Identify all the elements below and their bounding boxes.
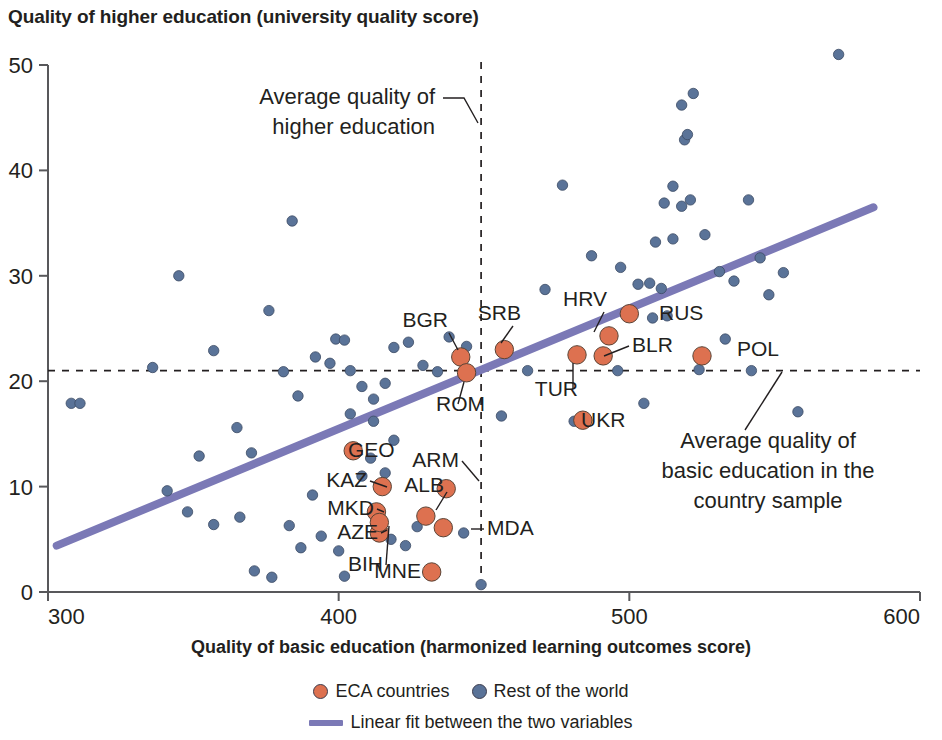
scatter-point-rest-of-world (325, 358, 335, 368)
legend-item-linear-fit[interactable]: Linear fit between the two variables (309, 712, 632, 733)
scatter-point-rest-of-world (694, 364, 704, 374)
scatter-point-rest-of-world (345, 409, 355, 419)
x-tick-label: 600 (883, 604, 920, 629)
scatter-point-rest-of-world (656, 283, 666, 293)
scatter-point-eca-hrv (600, 327, 618, 345)
scatter-point-rest-of-world (389, 342, 399, 352)
legend-label-eca-countries: ECA countries (335, 681, 449, 702)
country-label-alb: ALB (404, 473, 444, 496)
country-label-rus: RUS (659, 301, 703, 324)
scatter-point-rest-of-world (75, 398, 85, 408)
scatter-point-rest-of-world (714, 266, 724, 276)
scatter-point-rest-of-world (650, 237, 660, 247)
x-tick-label: 400 (320, 604, 357, 629)
country-label-rom: ROM (436, 392, 485, 415)
scatter-point-eca-pol (693, 347, 711, 365)
scatter-point-rest-of-world (182, 507, 192, 517)
scatter-point-eca-tur (568, 346, 586, 364)
scatter-point-rest-of-world (557, 180, 567, 190)
country-label-mne: MNE (374, 559, 421, 582)
scatter-point-rest-of-world (755, 253, 765, 263)
leader-line-arm (462, 461, 479, 481)
scatter-point-rest-of-world (764, 290, 774, 300)
scatter-point-rest-of-world (208, 519, 218, 529)
scatter-point-rest-of-world (232, 422, 242, 432)
scatter-point-rest-of-world (293, 391, 303, 401)
axes: 01020304050300400500600 (9, 53, 920, 629)
scatter-point-rest-of-world (633, 279, 643, 289)
scatter-point-rest-of-world (647, 313, 657, 323)
annotation-leader-avg-basic-education (745, 372, 782, 430)
y-tick-label: 40 (9, 158, 33, 183)
scatter-point-rest-of-world (174, 271, 184, 281)
country-label-srb: SRB (478, 301, 521, 324)
scatter-point-rest-of-world (743, 195, 753, 205)
scatter-point-rest-of-world (496, 411, 506, 421)
scatter-point-rest-of-world (316, 531, 326, 541)
y-tick-label: 30 (9, 264, 33, 289)
scatter-point-rest-of-world (432, 367, 442, 377)
scatter-point-rest-of-world (267, 572, 277, 582)
legend-label-linear-fit: Linear fit between the two variables (350, 712, 632, 733)
chart-figure: Quality of higher education (university … (0, 0, 942, 740)
scatter-point-eca-rom (457, 364, 475, 382)
scatter-point-eca-srb (495, 340, 513, 358)
scatter-point-rest-of-world (147, 362, 157, 372)
annotation-avg-basic-education-line: basic education in the (662, 458, 875, 483)
legend-label-rest-of-world: Rest of the world (494, 681, 629, 702)
x-axis-title: Quality of basic education (harmonized l… (0, 637, 942, 658)
scatter-point-rest-of-world (235, 512, 245, 522)
country-label-mkd: MKD (327, 496, 374, 519)
scatter-point-rest-of-world (368, 416, 378, 426)
annotation-avg-higher-education-line: Average quality of (259, 84, 436, 109)
scatter-point-rest-of-world (615, 262, 625, 272)
scatter-point-rest-of-world (668, 234, 678, 244)
scatter-point-eca-mne (422, 563, 440, 581)
scatter-point-rest-of-world (278, 367, 288, 377)
scatter-point-rest-of-world (639, 398, 649, 408)
eca-countries-marker-icon (313, 684, 328, 699)
legend-item-eca-countries[interactable]: ECA countries (313, 681, 449, 702)
country-label-aze: AZE (337, 520, 378, 543)
scatter-point-rest-of-world (659, 198, 669, 208)
scatter-point-rest-of-world (540, 284, 550, 294)
scatter-point-rest-of-world (613, 365, 623, 375)
scatter-point-rest-of-world (522, 365, 532, 375)
y-tick-label: 10 (9, 475, 33, 500)
country-label-pol: POL (737, 337, 779, 360)
legend-item-rest-of-world[interactable]: Rest of the world (472, 681, 629, 702)
country-label-geo: GEO (348, 438, 395, 461)
annotation-avg-basic-education-line: country sample (693, 488, 842, 513)
scatter-point-eca-kaz (373, 477, 391, 495)
scatter-point-rest-of-world (729, 276, 739, 286)
country-label-tur: TUR (535, 377, 578, 400)
scatter-point-rest-of-world (380, 468, 390, 478)
scatter-point-rest-of-world (676, 201, 686, 211)
country-label-ukr: UKR (581, 408, 625, 431)
scatter-point-rest-of-world (833, 49, 843, 59)
scatter-point-rest-of-world (685, 195, 695, 205)
scatter-point-rest-of-world (284, 520, 294, 530)
country-label-kaz: KAZ (326, 468, 367, 491)
scatter-point-rest-of-world (644, 278, 654, 288)
scatter-point-rest-of-world (676, 100, 686, 110)
scatter-point-rest-of-world (458, 528, 468, 538)
scatter-point-rest-of-world (333, 546, 343, 556)
scatter-point-rest-of-world (682, 129, 692, 139)
scatter-point-rest-of-world (700, 229, 710, 239)
annotation-avg-higher-education-line: higher education (272, 114, 435, 139)
scatter-point-rest-of-world (688, 88, 698, 98)
scatter-point-rest-of-world (246, 448, 256, 458)
scatter-point-rest-of-world (400, 540, 410, 550)
scatter-point-rest-of-world (668, 181, 678, 191)
scatter-point-rest-of-world (264, 305, 274, 315)
y-tick-label: 0 (21, 580, 33, 605)
rest-of-world-marker-icon (472, 684, 487, 699)
scatter-point-rest-of-world (310, 352, 320, 362)
x-tick-label: 500 (611, 604, 648, 629)
y-tick-label: 50 (9, 53, 33, 78)
scatter-point-rest-of-world (194, 451, 204, 461)
scatter-point-rest-of-world (162, 486, 172, 496)
country-label-mda: MDA (487, 516, 534, 539)
scatter-point-rest-of-world (296, 543, 306, 553)
